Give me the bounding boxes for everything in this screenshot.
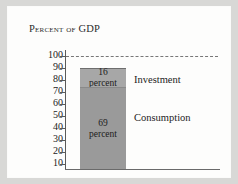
investment-amount: 16 [98, 67, 108, 77]
y-tick-label: 40 [53, 121, 63, 133]
bar-segment-consumption: 69percent [80, 87, 126, 169]
scanned-page-frame: Percent of GDP 100 90 80 70 [0, 0, 238, 184]
y-tick-label: 10 [53, 157, 63, 169]
y-tick-mark [60, 140, 66, 141]
y-tick-label: 90 [53, 61, 63, 73]
y-tick-mark [60, 152, 66, 153]
y-tick-mark [60, 104, 66, 105]
y-tick-mark [60, 56, 66, 57]
y-tick-label: 50 [53, 109, 63, 121]
page-content-area: Percent of GDP 100 90 80 70 [7, 6, 231, 178]
chart-title: Percent of GDP [29, 23, 100, 34]
y-tick-label: 30 [53, 133, 63, 145]
bar-segment-consumption-value: 69percent [89, 118, 117, 140]
legend-label-consumption: Consumption [134, 112, 191, 123]
y-tick-mark [60, 92, 66, 93]
stacked-bar-chart: Percent of GDP 100 90 80 70 [7, 6, 231, 178]
y-tick-mark [60, 68, 66, 69]
bar-segment-investment: 16percent [80, 68, 126, 87]
y-tick-label: 100 [48, 49, 63, 61]
y-tick-mark [60, 116, 66, 117]
y-tick-mark [60, 80, 66, 81]
y-tick-label: 20 [53, 145, 63, 157]
y-tick-mark [60, 128, 66, 129]
y-tick-mark [60, 164, 66, 165]
consumption-unit: percent [89, 129, 117, 139]
legend-label-investment: Investment [134, 74, 181, 85]
y-tick-label: 70 [53, 85, 63, 97]
y-tick-label: 80 [53, 73, 63, 85]
y-tick-label: 60 [53, 97, 63, 109]
stacked-bar: 16percent 69percent [80, 68, 126, 169]
bar-segment-investment-value: 16percent [89, 67, 117, 89]
consumption-amount: 69 [98, 118, 108, 128]
reference-line-100 [66, 56, 218, 57]
x-axis-line [65, 169, 220, 170]
